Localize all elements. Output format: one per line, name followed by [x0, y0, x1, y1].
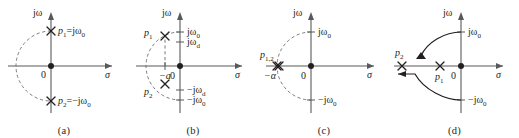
origin-label-a: 0: [41, 69, 46, 80]
tick-label-neg-jw0-c: −jω0: [318, 94, 337, 108]
origin-dot-b: [177, 63, 183, 69]
tick-label-jwd-sub-b: d: [196, 42, 200, 50]
origin-dot-a: [48, 63, 54, 69]
pole-label-p2-b: p2: [143, 86, 153, 100]
panel-a-plot: jω σ 0 p1=jω0 p2=−jω0: [0, 0, 128, 122]
pole-zero-figure: jω σ 0 p1=jω0 p2=−jω0 (a): [0, 0, 519, 138]
pole-label-p1-b: p1: [143, 27, 153, 41]
lower-locus-arrowhead-d: [398, 71, 406, 77]
tick-label-neg-alpha-c: −α: [264, 70, 277, 81]
panel-caption-c: (c): [258, 125, 390, 136]
tick-label-neg-jw0-sub-d: 0: [483, 100, 487, 108]
tick-label-jw0-sub-c: 0: [327, 32, 331, 40]
tick-label-jw0-sub-d: 0: [477, 32, 481, 40]
panel-d: jω σ 0 jω0 −jω0 p2 p1 (d): [390, 0, 519, 138]
panel-d-plot: jω σ 0 jω0 −jω0 p2 p1: [390, 0, 519, 122]
tick-label-jw0-d: jω0: [467, 26, 481, 40]
panel-caption-d: (d): [390, 125, 519, 136]
tick-label-neg-jw0-base-d: −jω: [468, 94, 483, 105]
origin-dot-d: [458, 63, 464, 69]
origin-label-c: 0: [301, 70, 306, 81]
pole-label-p1-d: p1: [434, 71, 444, 85]
tick-label-jw0-c: jω0: [317, 26, 331, 40]
panel-a: jω σ 0 p1=jω0 p2=−jω0 (a): [0, 0, 128, 138]
panel-caption-a: (a): [0, 125, 128, 136]
pole-label-p12-sub-c: 1,2: [265, 55, 274, 63]
pole-label-p12-c: p1,2: [259, 49, 274, 63]
real-axis-label-b: σ: [235, 69, 241, 80]
pole-label-p1-sub-d: 1: [440, 77, 444, 85]
tick-label-jw0-sub-b: 0: [196, 32, 200, 40]
real-axis-label-d: σ: [496, 69, 502, 80]
tick-label-neg-jwd-sub-b: d: [202, 90, 206, 98]
panel-c: jω σ 0 jω0 −jω0 −α p1,2 (c): [258, 0, 390, 138]
panel-c-plot: jω σ 0 jω0 −jω0 −α p1,2: [258, 0, 390, 122]
tick-label-jw0-base-c: jω: [317, 26, 328, 37]
pole-label-p2-value-a: =−jω: [67, 95, 88, 106]
pole-label-p2-sub-b: 2: [149, 92, 153, 100]
pole-label-p2-value-sub-a: 0: [87, 101, 91, 109]
upper-locus-path-d: [421, 32, 461, 56]
real-axis-label-c: σ: [367, 69, 373, 80]
panel-caption-b: (b): [128, 125, 258, 136]
tick-label-jwd-base-b: jω: [186, 36, 197, 47]
imag-axis-arrowhead-b: [177, 12, 183, 20]
real-axis-label-a: σ: [105, 69, 111, 80]
pole-label-p1-value-sub-a: 0: [82, 31, 86, 39]
imag-axis-arrowhead-a: [48, 12, 54, 20]
tick-label-jw0-base-d: jω: [467, 26, 478, 37]
upper-locus-arrowhead-d: [416, 52, 426, 59]
tick-label-neg-a-b: −a: [159, 70, 171, 81]
imag-axis-arrowhead-d: [458, 12, 464, 20]
pole-label-p2-sub-d: 2: [400, 53, 404, 61]
pole-label-p2-a: p2=−jω0: [57, 95, 91, 109]
imag-axis-label-a: jω: [32, 7, 43, 18]
imag-axis-label-c: jω: [292, 7, 303, 18]
origin-label-d: 0: [451, 70, 456, 81]
panel-b: jω σ 0 jω0 jωd −jωd −jω0 −a p1 p2: [128, 0, 258, 138]
tick-label-neg-jw0-sub-b: 0: [202, 100, 206, 108]
tick-label-neg-jw0-d: −jω0: [468, 94, 487, 108]
pole-label-p1-a: p1=jω0: [57, 25, 86, 39]
imag-axis-label-d: jω: [442, 7, 453, 18]
tick-label-neg-jw0-base-b: −jω: [187, 94, 202, 105]
pole-marker-p2-b: [161, 80, 169, 88]
origin-dot-c: [308, 63, 314, 69]
tick-label-neg-jw0-sub-c: 0: [333, 100, 337, 108]
pole-marker-p1-b: [161, 32, 169, 40]
pole-label-p1-value-a: =jω: [67, 25, 82, 36]
pole-label-p2-d: p2: [394, 47, 404, 61]
imag-axis-arrowhead-c: [308, 12, 314, 20]
origin-label-b: 0: [170, 70, 175, 81]
pole-label-p1-sub-b: 1: [149, 33, 153, 41]
panel-b-plot: jω σ 0 jω0 jωd −jωd −jω0 −a p1 p2: [128, 0, 258, 122]
tick-label-neg-jw0-base-c: −jω: [318, 94, 333, 105]
imag-axis-label-b: jω: [161, 7, 172, 18]
